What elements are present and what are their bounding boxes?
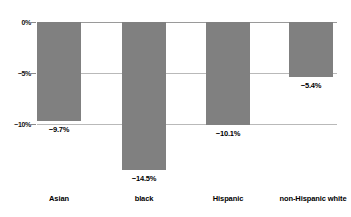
value-label-non-hispanic-white: −5.4% [281,81,341,90]
tick-mark-minus-5-percent [31,73,36,74]
bar-black[interactable] [122,22,166,170]
tick-mark-0-percent [31,22,36,23]
value-label-black: −14.5% [114,174,174,183]
value-label-hispanic: −10.1% [198,129,258,138]
category-label-asian: Asian [29,194,89,203]
bar-asian[interactable] [37,22,81,121]
bar-hispanic[interactable] [206,22,250,125]
bar-non-hispanic-white[interactable] [289,22,333,77]
value-label-asian: −9.7% [29,125,89,134]
category-label-black: black [114,194,174,203]
plot-area [37,22,337,124]
category-label-hispanic: Hispanic [198,194,258,203]
category-label-non-hispanic-white: non-Hispanic white [261,194,351,203]
y-axis-tick-label-2: −10% [0,121,31,128]
y-axis-tick-label-1: −5% [0,70,31,77]
y-axis-tick-label-0: 0% [0,19,31,26]
